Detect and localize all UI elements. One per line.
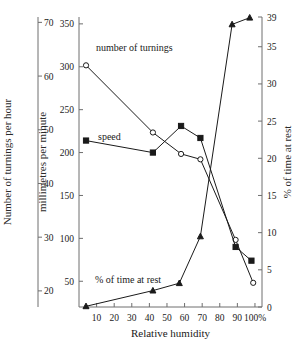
right-tick-label: 10 — [267, 228, 277, 238]
data-point-triangle — [176, 280, 182, 286]
data-point-triangle — [197, 233, 203, 239]
right-tick-label: 0 — [267, 303, 272, 313]
x-tick-label: 90 — [233, 313, 243, 323]
x-tick-label: 40 — [145, 313, 155, 323]
left-inner-tick-label: 50 — [65, 277, 75, 287]
left-outer-tick-label: 20 — [44, 286, 54, 296]
x-tick-label: 10 — [92, 313, 102, 323]
right-tick-label: 15 — [267, 191, 277, 201]
data-point-filled-square — [233, 244, 238, 249]
right-tick-label: 30 — [267, 79, 277, 89]
data-point-open-circle — [83, 63, 88, 68]
left-inner-tick-label: 300 — [60, 62, 75, 72]
left-outer-tick-label: 60 — [44, 72, 54, 82]
data-point-filled-square — [150, 150, 155, 155]
x-tick-label: 60 — [180, 313, 190, 323]
right-tick-label: 25 — [267, 117, 277, 127]
left-outer-tick-label: 30 — [44, 233, 54, 243]
left-inner-tick-label: 200 — [60, 148, 75, 158]
series-line--of-time-at-rest — [86, 18, 250, 307]
data-point-open-circle — [150, 130, 155, 135]
left-outer-axis-title: Number of turnings per hour — [1, 98, 13, 225]
left-outer-tick-label: 70 — [44, 18, 54, 28]
x-tick-label: 50 — [162, 313, 172, 323]
right-tick-label: 20 — [267, 154, 277, 164]
left-outer-tick-label: 50 — [44, 125, 54, 135]
data-point-filled-square — [178, 123, 183, 128]
series-label-speed: speed — [98, 131, 121, 142]
x-tick-label: 100% — [244, 313, 266, 323]
x-tick-label: 80 — [215, 313, 225, 323]
right-axis-title: % of time at rest — [281, 126, 293, 199]
x-axis-title: Relative humidity — [131, 327, 211, 339]
right-tick-label: 39 — [267, 13, 277, 23]
left-inner-tick-label: 100 — [60, 234, 75, 244]
series-label-time-at-rest: % of time at rest — [95, 274, 161, 285]
data-point-filled-square — [198, 135, 203, 140]
data-point-open-circle — [251, 280, 256, 285]
data-point-filled-square — [83, 138, 88, 143]
chart-svg: 102030405060708090100%Relative humidity5… — [0, 0, 301, 345]
data-point-triangle — [247, 15, 253, 21]
left-inner-tick-label: 350 — [60, 19, 75, 29]
x-tick-label: 20 — [109, 313, 119, 323]
chart-figure: 102030405060708090100%Relative humidity5… — [0, 0, 301, 345]
right-tick-label: 35 — [267, 42, 277, 52]
left-outer-tick-label: 40 — [44, 179, 54, 189]
right-tick-label: 5 — [267, 265, 272, 275]
series-label-number-of-turnings: number of turnings — [96, 42, 173, 53]
x-tick-label: 30 — [127, 313, 137, 323]
data-point-filled-square — [249, 258, 254, 263]
left-inner-tick-label: 150 — [60, 191, 75, 201]
series-line-number-of-turnings — [86, 65, 253, 282]
data-point-open-circle — [178, 151, 183, 156]
left-inner-tick-label: 250 — [60, 105, 75, 115]
x-tick-label: 70 — [197, 313, 207, 323]
data-point-open-circle — [198, 157, 203, 162]
series-line-speed — [86, 126, 251, 261]
